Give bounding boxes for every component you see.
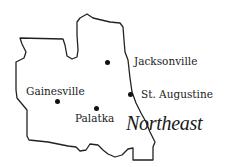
city-marker-palatka	[94, 106, 99, 111]
city-marker-jacksonville	[105, 60, 110, 65]
city-label-st-augustine: St. Augustine	[141, 89, 213, 100]
region-outline	[0, 0, 235, 167]
northeast-region-map: Jacksonville St. Augustine Gainesville P…	[0, 0, 235, 167]
city-label-palatka: Palatka	[75, 113, 114, 124]
region-title: Northeast	[126, 113, 202, 133]
city-marker-gainesville	[55, 99, 60, 104]
city-label-gainesville: Gainesville	[26, 86, 85, 97]
city-marker-st-augustine	[128, 92, 133, 97]
city-label-jacksonville: Jacksonville	[134, 56, 197, 67]
